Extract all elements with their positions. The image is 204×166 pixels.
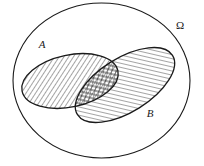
set-diagram-figure: A B Ω [0, 0, 204, 166]
set-a-label: A [38, 38, 46, 50]
set-b-label: B [147, 107, 154, 119]
venn-diagram-canvas: A B Ω [0, 0, 204, 166]
universe-label: Ω [176, 19, 184, 31]
